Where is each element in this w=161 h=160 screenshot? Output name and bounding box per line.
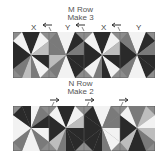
n-block-3 [84,106,120,151]
arrow-left-icon [111,22,123,32]
arrow-left-icon [75,22,87,32]
m-block-2 [49,32,84,78]
m-row-label-y-1: Y [65,24,70,32]
m-row-label-x-2: X [101,24,106,32]
n-row-subtitle: Make 2 [0,88,161,96]
m-block-3 [84,32,120,78]
m-row-strip [13,32,155,78]
m-row-subtitle: Make 3 [0,14,161,22]
m-row-label-y-2: Y [136,24,141,32]
n-row-strip [13,106,155,151]
m-block-1 [13,32,49,78]
n-block-2 [49,106,84,151]
m-row-label-x-1: X [31,24,36,32]
n-block-1 [13,106,49,151]
m-block-4 [120,32,155,78]
arrow-left-icon [42,22,54,32]
n-block-4 [120,106,155,151]
